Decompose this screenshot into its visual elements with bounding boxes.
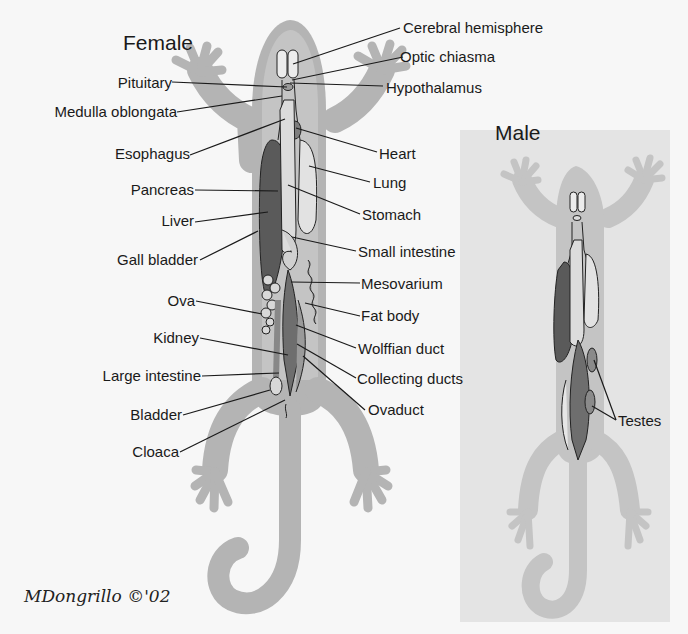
label-esophagus: Esophagus [115,146,190,161]
label-kidney: Kidney [153,330,199,345]
label-liver: Liver [161,213,194,228]
label-optic-chiasma: Optic chiasma [400,49,495,64]
label-cloaca: Cloaca [132,444,179,459]
label-large-intestine: Large intestine [103,368,201,383]
anatomy-illustration [0,0,688,634]
label-hypothalamus: Hypothalamus [386,80,482,95]
male-title: Male [495,122,541,143]
artist-signature: MDongrillo ©'02 [24,588,170,605]
label-small-intestine: Small intestine [358,244,456,259]
label-lung: Lung [373,175,406,190]
label-stomach: Stomach [362,207,421,222]
label-testes: Testes [618,413,661,428]
label-pancreas: Pancreas [131,182,194,197]
label-heart: Heart [379,146,416,161]
label-mesovarium: Mesovarium [361,276,443,291]
lizard-anatomy-diagram: Female Male Pituitary Medulla oblongata … [0,0,688,634]
label-cerebral-hemisphere: Cerebral hemisphere [403,20,543,35]
female-title: Female [123,32,193,53]
label-medulla-oblongata: Medulla oblongata [54,104,177,119]
label-bladder: Bladder [130,407,182,422]
label-ovaduct: Ovaduct [368,402,424,417]
label-gall-bladder: Gall bladder [117,252,198,267]
label-wolffian-duct: Wolffian duct [358,341,444,356]
label-ova: Ova [167,293,195,308]
label-pituitary: Pituitary [118,75,172,90]
label-fat-body: Fat body [361,308,419,323]
label-collecting-ducts: Collecting ducts [357,371,463,386]
